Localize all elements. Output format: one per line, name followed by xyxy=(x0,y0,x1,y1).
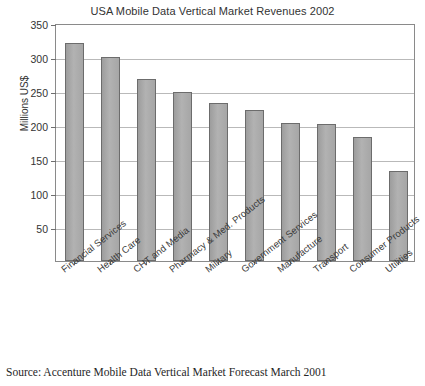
y-tick-mark xyxy=(51,195,56,196)
bar xyxy=(353,137,372,261)
y-tick-label: 350 xyxy=(8,19,48,31)
y-tick-label: 200 xyxy=(8,121,48,133)
y-tick-label: 150 xyxy=(8,155,48,167)
y-tick-mark xyxy=(51,127,56,128)
y-tick-mark xyxy=(51,93,56,94)
y-tick-label: 50 xyxy=(8,223,48,235)
y-tick-mark xyxy=(51,25,56,26)
source-note: Source: Accenture Mobile Data Vertical M… xyxy=(6,366,326,378)
y-tick-mark xyxy=(51,229,56,230)
bar xyxy=(65,43,84,261)
y-tick-label: 100 xyxy=(8,189,48,201)
chart-title: USA Mobile Data Vertical Market Revenues… xyxy=(0,5,425,17)
bar xyxy=(137,79,156,261)
bar xyxy=(245,110,264,261)
y-tick-label: 300 xyxy=(8,53,48,65)
y-tick-mark xyxy=(51,59,56,60)
y-tick-mark xyxy=(51,161,56,162)
y-tick-label: 250 xyxy=(8,87,48,99)
